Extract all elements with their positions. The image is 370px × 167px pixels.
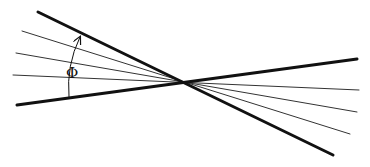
angle-label-phi: Φ — [66, 64, 78, 82]
converging-lines-diagram: Φ — [0, 0, 370, 167]
thick-boundary-lines — [17, 12, 357, 155]
